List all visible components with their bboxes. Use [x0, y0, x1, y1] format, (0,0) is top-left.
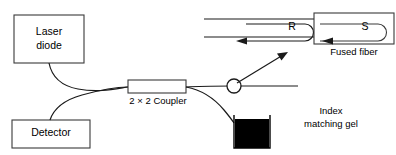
fiber-coupler-to-sensor	[186, 86, 298, 87]
sample-arm-label: S	[358, 20, 372, 32]
reference-arrow-shaft	[243, 24, 313, 41]
laser-diode-label-line1: Laser	[14, 24, 84, 38]
index-gel-label-line1: Index	[276, 104, 386, 117]
fiber-optic-schematic-diagram: Laser diode Detector 2 × 2 Coupler Fused…	[0, 0, 396, 155]
pointer-head	[277, 52, 288, 61]
fiber-connector-icon	[227, 79, 241, 93]
fiber-laser-to-coupler	[49, 63, 128, 91]
laser-diode-label: Laser diode	[14, 24, 84, 52]
index-gel-label-line2: matching gel	[276, 117, 386, 130]
laser-diode-label-line2: diode	[14, 38, 84, 52]
u-turn-arrow-icon-reference	[236, 24, 313, 45]
fused-fiber-box	[314, 13, 394, 44]
index-matching-gel-beaker	[234, 115, 270, 148]
coupler-label: 2 × 2 Coupler	[112, 95, 204, 106]
fused-fiber-label: Fused fiber	[312, 46, 396, 57]
diagonal-arrow-icon	[237, 52, 288, 83]
index-gel-label: Index matching gel	[276, 104, 386, 130]
reference-arrow-head	[236, 38, 247, 45]
pointer-shaft	[237, 55, 283, 83]
coupler-box	[128, 80, 186, 93]
reference-arm-label: R	[285, 20, 299, 32]
detector-label: Detector	[12, 126, 90, 138]
gel-fill-body	[235, 119, 269, 148]
